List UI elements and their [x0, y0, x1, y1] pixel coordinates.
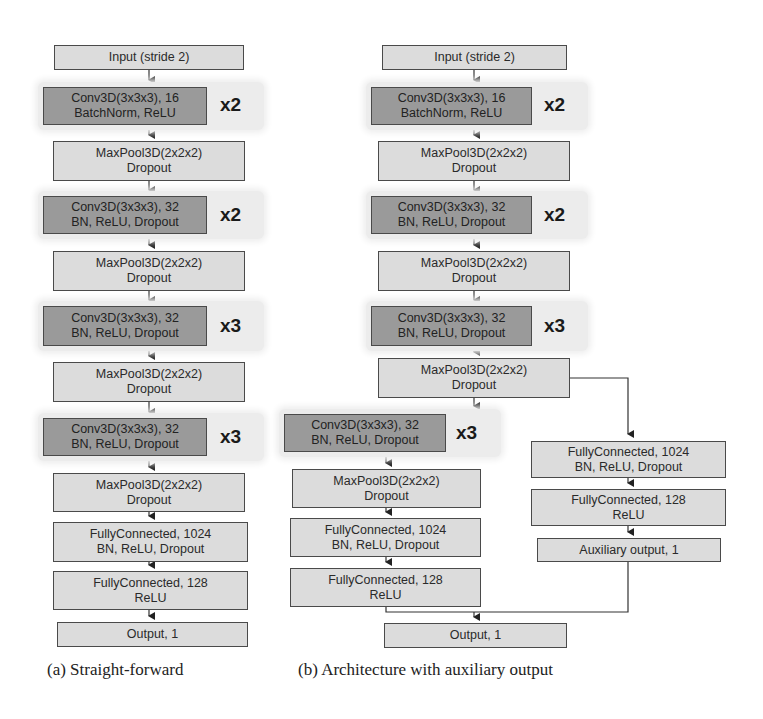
layer-label: FullyConnected, 1024: [90, 527, 212, 542]
layer-label: MaxPool3D(2x2x2): [421, 363, 527, 378]
layer-label: BatchNorm, ReLU: [74, 106, 175, 121]
layer-label: Dropout: [452, 161, 496, 176]
layer-fc-128: FullyConnected, 128 ReLU: [53, 571, 248, 610]
layer-label: Input (stride 2): [109, 50, 190, 65]
layer-conv3d-32: Conv3D(3x3x3), 32 BN, ReLU, Dropout: [284, 414, 446, 452]
layer-label: BN, ReLU, Dropout: [311, 433, 419, 448]
repeat-multiplier: x3: [220, 315, 241, 337]
layer-label: BN, ReLU, Dropout: [71, 437, 179, 452]
layer-label: Dropout: [364, 489, 408, 504]
layer-conv3d-16: Conv3D(3x3x3), 16 BatchNorm, ReLU: [43, 87, 207, 125]
layer-maxpool: MaxPool3D(2x2x2) Dropout: [378, 251, 570, 291]
layer-maxpool: MaxPool3D(2x2x2) Dropout: [53, 473, 245, 512]
layer-label: BN, ReLU, Dropout: [71, 215, 179, 230]
layer-label: Conv3D(3x3x3), 32: [71, 311, 179, 326]
layer-label: Auxiliary output, 1: [579, 543, 678, 558]
caption-b: (b) Architecture with auxiliary output: [298, 660, 553, 680]
layer-label: BN, ReLU, Dropout: [97, 542, 205, 557]
layer-output: Output, 1: [57, 622, 248, 647]
layer-label: Output, 1: [450, 628, 501, 643]
layer-label: MaxPool3D(2x2x2): [96, 478, 202, 493]
layer-label: ReLU: [370, 588, 402, 603]
layer-maxpool: MaxPool3D(2x2x2) Dropout: [53, 362, 245, 402]
layer-conv3d-32: Conv3D(3x3x3), 32 BN, ReLU, Dropout: [371, 306, 532, 346]
aux-layer-fc-128: FullyConnected, 128 ReLU: [531, 489, 726, 526]
repeat-multiplier: x3: [220, 426, 241, 448]
layer-label: ReLU: [613, 508, 645, 523]
layer-label: FullyConnected, 128: [571, 493, 686, 508]
layer-maxpool: MaxPool3D(2x2x2) Dropout: [378, 141, 570, 181]
layer-label: MaxPool3D(2x2x2): [96, 146, 202, 161]
repeat-multiplier: x2: [220, 204, 241, 226]
layer-label: MaxPool3D(2x2x2): [421, 256, 527, 271]
layer-label: Conv3D(3x3x3), 16: [71, 91, 179, 106]
layer-maxpool: MaxPool3D(2x2x2) Dropout: [53, 141, 245, 181]
layer-label: FullyConnected, 1024: [325, 523, 447, 538]
layer-label: BN, ReLU, Dropout: [71, 326, 179, 341]
layer-output: Output, 1: [384, 623, 567, 648]
layer-label: MaxPool3D(2x2x2): [96, 256, 202, 271]
layer-conv3d-32: Conv3D(3x3x3), 32 BN, ReLU, Dropout: [371, 196, 532, 234]
layer-maxpool: MaxPool3D(2x2x2) Dropout: [53, 251, 245, 291]
layer-label: FullyConnected, 128: [93, 576, 208, 591]
layer-maxpool-branch-point: MaxPool3D(2x2x2) Dropout: [378, 358, 570, 398]
layer-label: Conv3D(3x3x3), 32: [398, 311, 506, 326]
layer-label: ReLU: [135, 591, 167, 606]
layer-label: Dropout: [127, 161, 171, 176]
layer-conv3d-16: Conv3D(3x3x3), 16 BatchNorm, ReLU: [371, 87, 532, 125]
layer-label: Conv3D(3x3x3), 16: [398, 91, 506, 106]
layer-label: Dropout: [452, 378, 496, 393]
layer-label: MaxPool3D(2x2x2): [333, 474, 439, 489]
repeat-multiplier: x2: [544, 94, 565, 116]
layer-fc-1024: FullyConnected, 1024 BN, ReLU, Dropout: [53, 522, 248, 562]
layer-label: BN, ReLU, Dropout: [398, 215, 506, 230]
layer-label: MaxPool3D(2x2x2): [96, 367, 202, 382]
layer-fc-1024: FullyConnected, 1024 BN, ReLU, Dropout: [290, 518, 481, 557]
aux-layer-fc-1024: FullyConnected, 1024 BN, ReLU, Dropout: [531, 441, 726, 478]
layer-label: Dropout: [127, 493, 171, 508]
layer-label: Conv3D(3x3x3), 32: [71, 422, 179, 437]
layer-label: Conv3D(3x3x3), 32: [71, 200, 179, 215]
repeat-multiplier: x2: [544, 204, 565, 226]
layer-conv3d-32: Conv3D(3x3x3), 32 BN, ReLU, Dropout: [43, 196, 207, 234]
caption-a: (a) Straight-forward: [47, 660, 183, 680]
repeat-multiplier: x3: [456, 422, 477, 444]
layer-input: Input (stride 2): [54, 45, 244, 70]
layer-label: BatchNorm, ReLU: [401, 106, 502, 121]
layer-input: Input (stride 2): [382, 45, 567, 70]
layer-label: FullyConnected, 1024: [568, 445, 690, 460]
layer-label: BN, ReLU, Dropout: [332, 538, 440, 553]
layer-conv3d-32: Conv3D(3x3x3), 32 BN, ReLU, Dropout: [43, 306, 207, 346]
layer-label: Output, 1: [127, 627, 178, 642]
layer-fc-128: FullyConnected, 128 ReLU: [290, 568, 481, 607]
layer-conv3d-32: Conv3D(3x3x3), 32 BN, ReLU, Dropout: [43, 418, 207, 456]
layer-label: Dropout: [452, 271, 496, 286]
repeat-multiplier: x2: [220, 94, 241, 116]
layer-label: Input (stride 2): [434, 50, 515, 65]
figure: Input (stride 2) Conv3D(3x3x3), 16 Batch…: [0, 0, 763, 719]
layer-label: FullyConnected, 128: [328, 573, 443, 588]
layer-maxpool: MaxPool3D(2x2x2) Dropout: [292, 469, 481, 508]
layer-label: MaxPool3D(2x2x2): [421, 146, 527, 161]
layer-label: Dropout: [127, 271, 171, 286]
layer-label: Dropout: [127, 382, 171, 397]
layer-label: Conv3D(3x3x3), 32: [398, 200, 506, 215]
layer-label: Conv3D(3x3x3), 32: [311, 418, 419, 433]
repeat-multiplier: x3: [544, 315, 565, 337]
layer-label: BN, ReLU, Dropout: [398, 326, 506, 341]
aux-layer-output: Auxiliary output, 1: [537, 538, 721, 562]
layer-label: BN, ReLU, Dropout: [575, 460, 683, 475]
